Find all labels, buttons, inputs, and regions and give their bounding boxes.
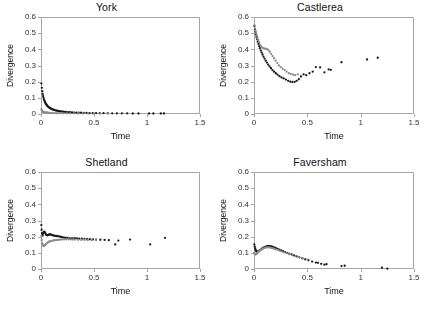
plot-canvas-shetland (0, 155, 213, 310)
panel-shetland: Shetland (0, 155, 213, 310)
panel-castlerea: Castlerea (213, 0, 427, 155)
panel-york: York (0, 0, 213, 155)
plot-canvas-faversham (213, 155, 427, 310)
figure-panel-grid: York Castlerea Shetland Faversham (0, 0, 427, 310)
plot-canvas-york (0, 0, 213, 155)
plot-canvas-castlerea (213, 0, 427, 155)
panel-faversham: Faversham (213, 155, 427, 310)
